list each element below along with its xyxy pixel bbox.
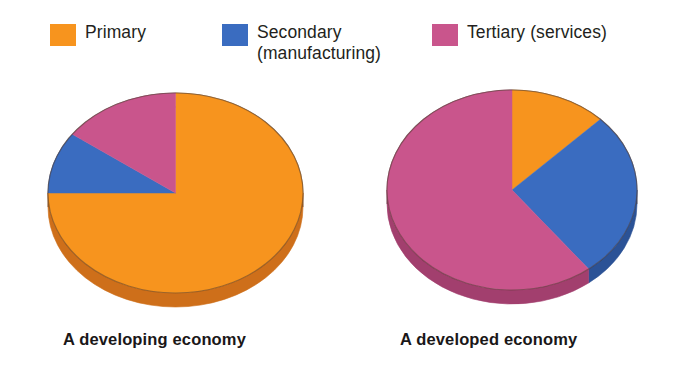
pie-chart-developed-economy[interactable] (387, 90, 637, 304)
pie-charts-svg (0, 0, 686, 378)
pie-chart-developing-economy[interactable] (48, 93, 303, 307)
caption-developing-economy: A developing economy (63, 330, 246, 349)
caption-developed-economy: A developed economy (400, 330, 577, 349)
pie-charts-container (0, 0, 686, 378)
